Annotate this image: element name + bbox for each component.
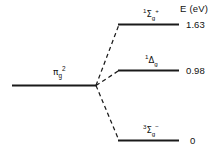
connector-to-triplet-sigma-g-minus xyxy=(96,86,119,141)
term-right-superscript-0: + xyxy=(155,7,159,14)
term-subscript-1: g xyxy=(154,60,157,67)
term-label-triplet-sigma-g-minus: 3Σg− xyxy=(143,126,159,135)
connector-to-singlet-sigma-g-plus xyxy=(96,25,119,86)
initial-state-subscript: g xyxy=(58,72,62,79)
term-right-superscript-2: − xyxy=(155,123,159,130)
initial-state-label: πg2 xyxy=(53,68,66,77)
term-subscript-2: g xyxy=(152,130,155,137)
energy-axis-header: E (eV) xyxy=(180,4,208,14)
energy-value-singlet-delta-g: 0.98 xyxy=(186,66,205,76)
term-label-singlet-delta-g: 1Δg xyxy=(145,56,158,65)
energy-value-singlet-sigma-g-plus: 1.63 xyxy=(186,20,205,30)
energy-value-triplet-sigma-g-minus: 0 xyxy=(190,136,195,146)
initial-state-superscript: 2 xyxy=(62,65,66,72)
term-label-singlet-sigma-g-plus: 1Σg+ xyxy=(143,10,159,19)
energy-level-diagram: E (eV) πg2 1Σg+ 1Δg 3Σg− 1.63 0.98 0 xyxy=(0,0,220,149)
term-subscript-0: g xyxy=(152,14,155,21)
